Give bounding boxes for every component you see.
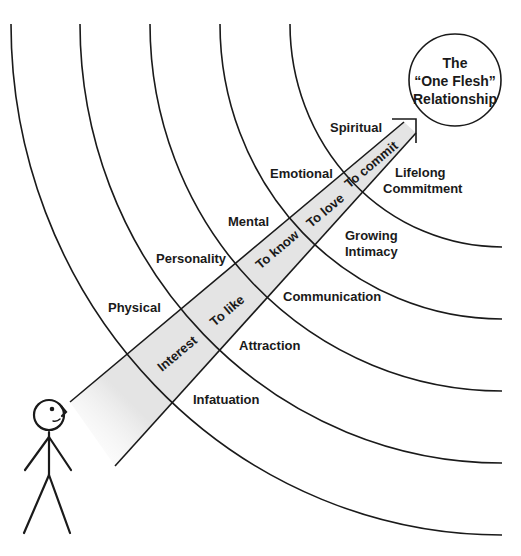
circle-line-3: Relationship — [413, 91, 497, 107]
relationship-diagram: The “One Flesh” Relationship Physical Pe… — [0, 0, 521, 556]
label-emotional: Emotional — [270, 166, 333, 181]
arrow-upper-edge — [70, 122, 404, 402]
one-flesh-relationship-circle: The “One Flesh” Relationship — [409, 34, 501, 126]
circle-line-1: The — [443, 55, 468, 71]
label-attraction: Attraction — [239, 338, 300, 353]
label-spiritual: Spiritual — [330, 120, 382, 135]
label-lifelong: Lifelong — [395, 165, 446, 180]
label-intimacy: Intimacy — [345, 244, 399, 259]
label-mental: Mental — [228, 214, 269, 229]
circle-line-2: “One Flesh” — [414, 73, 496, 89]
label-physical: Physical — [108, 300, 161, 315]
label-infatuation: Infatuation — [193, 392, 259, 407]
label-growing: Growing — [345, 228, 398, 243]
stick-figure-icon — [24, 400, 71, 533]
label-personality: Personality — [156, 251, 227, 266]
label-commitment: Commitment — [383, 181, 463, 196]
label-communication: Communication — [283, 289, 381, 304]
